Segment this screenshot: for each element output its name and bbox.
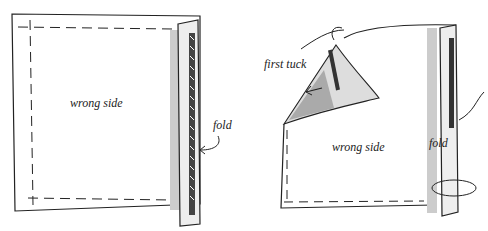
diagram-left-folded-edge: wrong side fold bbox=[0, 0, 244, 231]
label-wrong-side: wrong side bbox=[332, 140, 385, 155]
diagram-right-first-tuck: first tuck wrong side fold bbox=[244, 0, 488, 231]
fabric-tuck-illustration bbox=[244, 0, 488, 231]
label-fold: fold bbox=[213, 118, 232, 133]
label-fold: fold bbox=[429, 136, 448, 151]
fabric-fold-illustration bbox=[0, 0, 244, 231]
label-wrong-side: wrong side bbox=[70, 96, 123, 111]
label-first-tuck: first tuck bbox=[264, 57, 306, 72]
